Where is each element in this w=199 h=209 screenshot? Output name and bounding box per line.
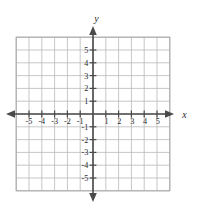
y-tick-label: 3 (84, 72, 88, 81)
x-axis-left-arrow-icon (6, 110, 15, 118)
x-tick-label: -4 (38, 117, 45, 126)
y-tick-label: 1 (84, 97, 88, 106)
y-tick-label: 5 (84, 46, 88, 55)
y-axis-top-arrow-icon (89, 26, 97, 35)
y-axis-label: y (93, 13, 99, 24)
y-axis-tick-labels-negative: -1 -2 -3 -4 -5 (82, 123, 89, 183)
y-tick-label: -4 (82, 161, 89, 170)
x-tick-label: -3 (51, 117, 58, 126)
x-axis-label: x (181, 109, 187, 120)
x-tick-label: 4 (143, 117, 147, 126)
y-tick-label: 4 (84, 59, 88, 68)
x-tick-label: -2 (64, 117, 71, 126)
x-tick-label: 2 (117, 117, 121, 126)
x-tick-label: -5 (26, 117, 33, 126)
y-tick-label: 2 (84, 84, 88, 93)
x-tick-label: 1 (105, 117, 109, 126)
y-tick-label: -3 (82, 148, 89, 157)
x-axis-tick-labels-positive: 1 2 3 4 5 (105, 117, 160, 126)
x-tick-label: 5 (156, 117, 160, 126)
y-axis-bottom-arrow-icon (89, 193, 97, 202)
coordinate-grid-svg: -5 -4 -3 -2 -1 1 2 3 4 5 5 4 3 2 1 -1 -2… (0, 0, 199, 209)
x-tick-label: 3 (130, 117, 134, 126)
y-tick-label: -1 (82, 123, 89, 132)
coordinate-plane-figure: -5 -4 -3 -2 -1 1 2 3 4 5 5 4 3 2 1 -1 -2… (0, 0, 199, 209)
y-axis-tick-labels-positive: 5 4 3 2 1 (84, 46, 88, 106)
y-tick-label: -2 (82, 136, 89, 145)
y-tick-label: -5 (82, 174, 89, 183)
x-axis-tick-labels-negative: -5 -4 -3 -2 -1 (26, 117, 84, 126)
